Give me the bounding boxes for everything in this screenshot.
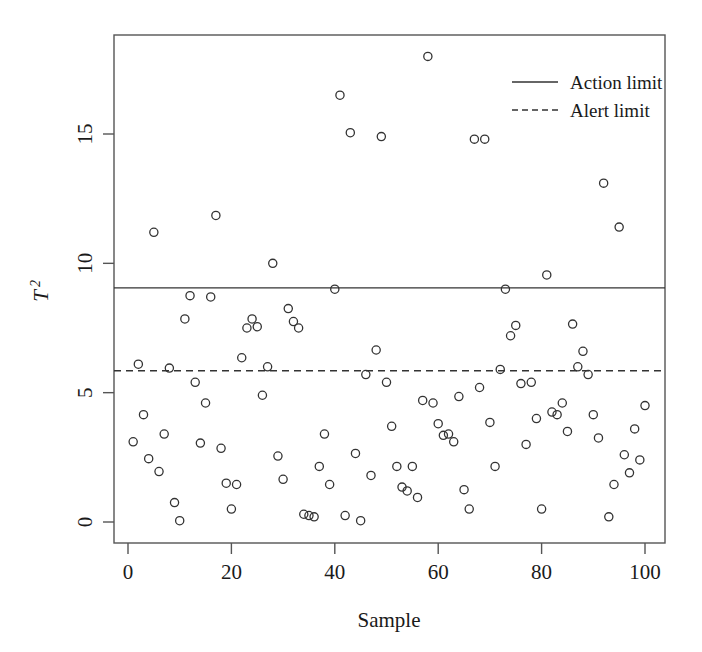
scatter-chart-figure: 020406080100 051015 Sample T 2 Action li… — [0, 0, 702, 652]
data-point — [465, 505, 473, 513]
data-point — [625, 469, 633, 477]
legend: Action limitAlert limit — [512, 72, 663, 121]
data-point — [538, 505, 546, 513]
y-axis-title-base: T — [29, 289, 53, 302]
data-point — [517, 380, 525, 388]
data-point — [408, 462, 416, 470]
data-point — [351, 449, 359, 457]
data-point — [377, 132, 385, 140]
data-point — [243, 324, 251, 332]
y-tick-label-5: 5 — [73, 387, 97, 398]
data-point — [486, 418, 494, 426]
data-point — [574, 363, 582, 371]
data-point — [641, 402, 649, 410]
data-point — [413, 493, 421, 501]
data-point — [569, 320, 577, 328]
data-point — [372, 346, 380, 354]
x-axis-ticks: 020406080100 — [123, 543, 661, 584]
data-point — [258, 391, 266, 399]
data-point — [238, 354, 246, 362]
data-point — [450, 438, 458, 446]
data-point — [501, 285, 509, 293]
data-point — [481, 135, 489, 143]
data-point — [129, 438, 137, 446]
data-point — [253, 323, 261, 331]
data-point — [201, 399, 209, 407]
y-axis-ticks: 051015 — [73, 124, 114, 528]
data-point — [263, 363, 271, 371]
data-point — [527, 378, 535, 386]
legend-label-action-limit: Action limit — [570, 72, 663, 93]
data-point — [196, 439, 204, 447]
data-point — [367, 471, 375, 479]
data-point — [310, 513, 318, 521]
data-point — [212, 211, 220, 219]
data-point — [331, 285, 339, 293]
data-point — [594, 434, 602, 442]
data-point — [326, 480, 334, 488]
x-tick-label-60: 60 — [428, 560, 449, 584]
data-point — [444, 430, 452, 438]
data-point — [393, 462, 401, 470]
data-point — [631, 425, 639, 433]
data-point — [305, 511, 313, 519]
data-point — [460, 486, 468, 494]
data-point — [600, 179, 608, 187]
data-point — [150, 228, 158, 236]
data-point — [506, 332, 514, 340]
data-point — [145, 455, 153, 463]
data-point — [232, 480, 240, 488]
data-point — [584, 370, 592, 378]
y-tick-label-15: 15 — [73, 124, 97, 145]
data-point — [496, 365, 504, 373]
data-point — [439, 431, 447, 439]
data-point — [522, 440, 530, 448]
data-point — [336, 91, 344, 99]
data-point — [475, 383, 483, 391]
data-point — [424, 52, 432, 60]
data-point — [284, 305, 292, 313]
data-point — [589, 411, 597, 419]
data-point — [605, 513, 613, 521]
y-tick-label-10: 10 — [73, 253, 97, 274]
data-point — [610, 480, 618, 488]
data-point — [636, 456, 644, 464]
data-point — [248, 315, 256, 323]
data-point — [207, 293, 215, 301]
data-point — [532, 414, 540, 422]
data-point — [155, 467, 163, 475]
data-point — [563, 427, 571, 435]
data-point — [341, 511, 349, 519]
data-point — [217, 444, 225, 452]
x-tick-label-0: 0 — [123, 560, 134, 584]
data-point — [295, 324, 303, 332]
data-point — [320, 430, 328, 438]
data-point — [429, 399, 437, 407]
data-point — [165, 364, 173, 372]
x-tick-label-100: 100 — [629, 560, 661, 584]
data-point — [512, 321, 520, 329]
data-point — [176, 517, 184, 525]
y-axis-title-exponent: 2 — [28, 280, 43, 287]
data-point — [382, 378, 390, 386]
data-point — [186, 292, 194, 300]
data-point — [362, 370, 370, 378]
data-point — [160, 430, 168, 438]
data-point — [357, 517, 365, 525]
data-point — [279, 475, 287, 483]
x-tick-label-40: 40 — [324, 560, 345, 584]
x-tick-label-80: 80 — [531, 560, 552, 584]
data-point — [615, 223, 623, 231]
data-point — [269, 259, 277, 267]
data-point — [388, 422, 396, 430]
data-point — [191, 378, 199, 386]
data-point — [181, 315, 189, 323]
data-point — [300, 510, 308, 518]
y-tick-label-0: 0 — [73, 517, 97, 528]
reference-lines — [114, 288, 665, 371]
y-axis-title: T 2 — [28, 280, 53, 302]
data-point — [419, 396, 427, 404]
data-point — [315, 462, 323, 470]
data-point — [455, 392, 463, 400]
data-point — [558, 399, 566, 407]
